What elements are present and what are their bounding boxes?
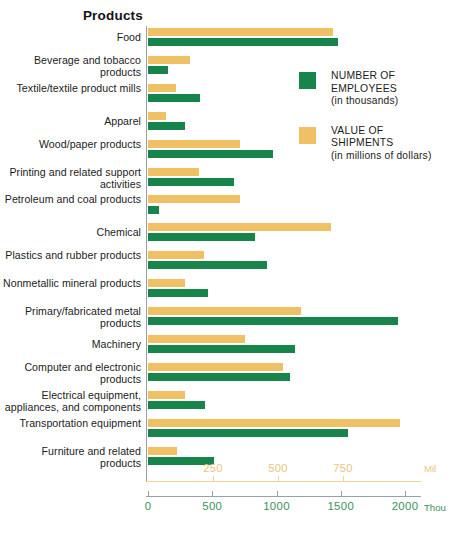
millions-axis-line bbox=[146, 481, 421, 482]
bar-number-of-employees bbox=[148, 373, 290, 381]
thousands-axis-tick bbox=[405, 491, 406, 497]
thousands-axis-tick bbox=[277, 491, 278, 497]
millions-axis-tick-label: 750 bbox=[333, 462, 353, 474]
millions-axis-tick-label: 500 bbox=[268, 462, 288, 474]
bar-group bbox=[148, 363, 290, 381]
bar-value-of-shipments bbox=[148, 168, 199, 176]
legend-employees-line2: EMPLOYEES bbox=[331, 83, 431, 96]
bar-value-of-shipments bbox=[148, 112, 166, 120]
bar-number-of-employees bbox=[148, 401, 205, 409]
millions-axis-tick bbox=[278, 476, 279, 482]
bar-group bbox=[148, 140, 273, 158]
legend-shipments-line1: VALUE OF bbox=[331, 125, 431, 138]
bar-number-of-employees bbox=[148, 233, 255, 241]
bar-number-of-employees bbox=[148, 150, 273, 158]
bar-value-of-shipments bbox=[148, 251, 204, 259]
page-title: Products bbox=[0, 8, 143, 23]
bar-group bbox=[148, 223, 331, 241]
bar-group bbox=[148, 28, 338, 46]
category-label: Printing and related support activities bbox=[0, 166, 141, 191]
category-label: Petroleum and coal products bbox=[0, 193, 141, 205]
category-label: Computer and electronic products bbox=[0, 361, 141, 386]
bar-number-of-employees bbox=[148, 289, 208, 297]
category-label: Plastics and rubber products bbox=[0, 249, 141, 261]
thousands-axis-unit: Thou bbox=[424, 502, 446, 513]
thousands-axis-tick-label: 1500 bbox=[327, 500, 354, 512]
bar-value-of-shipments bbox=[148, 391, 185, 399]
bar-group bbox=[148, 279, 208, 297]
bar-group bbox=[148, 168, 234, 186]
thousands-axis-tick bbox=[212, 491, 213, 497]
bar-number-of-employees bbox=[148, 38, 338, 46]
millions-axis-tick bbox=[213, 476, 214, 482]
thousands-axis-line bbox=[146, 496, 421, 497]
legend-label-shipments: VALUE OF SHIPMENTS (in millions of dolla… bbox=[331, 125, 431, 163]
legend-employees-line3: (in thousands) bbox=[331, 95, 431, 108]
bar-group bbox=[148, 112, 185, 130]
bar-group bbox=[148, 307, 398, 325]
bar-number-of-employees bbox=[148, 345, 295, 353]
legend-item-shipments: VALUE OF SHIPMENTS (in millions of dolla… bbox=[299, 125, 431, 163]
bar-value-of-shipments bbox=[148, 335, 245, 343]
thousands-axis-tick-label: 2000 bbox=[392, 500, 419, 512]
category-label: Transportation equipment bbox=[0, 417, 141, 429]
bar-number-of-employees bbox=[148, 317, 398, 325]
bar-number-of-employees bbox=[148, 206, 159, 214]
bar-value-of-shipments bbox=[148, 223, 331, 231]
bar-group bbox=[148, 335, 295, 353]
category-label: Primary/fabricated metal products bbox=[0, 305, 141, 330]
bar-number-of-employees bbox=[148, 261, 267, 269]
bar-group bbox=[148, 419, 400, 437]
bar-value-of-shipments bbox=[148, 195, 240, 203]
category-label: Machinery bbox=[0, 338, 141, 350]
bar-value-of-shipments bbox=[148, 363, 283, 371]
bar-value-of-shipments bbox=[148, 28, 333, 36]
bar-group bbox=[148, 84, 200, 102]
bar-value-of-shipments bbox=[148, 84, 176, 92]
legend-employees-line1: NUMBER OF bbox=[331, 70, 431, 83]
bar-group bbox=[148, 195, 240, 213]
bar-value-of-shipments bbox=[148, 140, 240, 148]
bar-number-of-employees bbox=[148, 429, 348, 437]
category-label: Beverage and tobacco products bbox=[0, 54, 141, 79]
category-label: Furniture and related products bbox=[0, 445, 141, 470]
bar-number-of-employees bbox=[148, 122, 185, 130]
bar-value-of-shipments bbox=[148, 307, 301, 315]
category-label: Food bbox=[0, 31, 141, 43]
bar-group bbox=[148, 391, 205, 409]
bar-number-of-employees bbox=[148, 178, 234, 186]
millions-axis-unit: Mil bbox=[424, 463, 436, 474]
bar-chart: Products FoodBeverage and tobacco produc… bbox=[0, 0, 467, 536]
bar-group bbox=[148, 56, 190, 74]
category-label: Textile/textile product mills bbox=[0, 82, 141, 94]
bar-value-of-shipments bbox=[148, 447, 177, 455]
legend-label-employees: NUMBER OF EMPLOYEES (in thousands) bbox=[331, 70, 431, 108]
thousands-axis-tick-label: 500 bbox=[202, 500, 222, 512]
thousands-axis-tick bbox=[341, 491, 342, 497]
thousands-axis-tick bbox=[148, 491, 149, 497]
category-label: Wood/paper products bbox=[0, 138, 141, 150]
thousands-axis-tick-label: 1000 bbox=[263, 500, 290, 512]
legend-item-employees: NUMBER OF EMPLOYEES (in thousands) bbox=[299, 70, 431, 108]
millions-axis-tick-label: 250 bbox=[203, 462, 223, 474]
thousands-axis-tick-label: 0 bbox=[145, 500, 152, 512]
category-label: Nonmetallic mineral products bbox=[0, 277, 141, 289]
bar-number-of-employees bbox=[148, 66, 168, 74]
category-label: Electrical equipment, appliances, and co… bbox=[0, 389, 141, 414]
chart-legend: NUMBER OF EMPLOYEES (in thousands) VALUE… bbox=[299, 70, 431, 180]
bar-value-of-shipments bbox=[148, 279, 185, 287]
millions-axis-tick bbox=[343, 476, 344, 482]
legend-shipments-line3: (in millions of dollars) bbox=[331, 150, 431, 163]
category-label: Apparel bbox=[0, 115, 141, 127]
bar-value-of-shipments bbox=[148, 56, 190, 64]
category-label: Chemical bbox=[0, 226, 141, 238]
legend-swatch-green-icon bbox=[299, 72, 316, 89]
legend-shipments-line2: SHIPMENTS bbox=[331, 137, 431, 150]
bar-number-of-employees bbox=[148, 94, 200, 102]
legend-swatch-orange-icon bbox=[299, 127, 316, 144]
bar-value-of-shipments bbox=[148, 419, 400, 427]
bar-group bbox=[148, 251, 267, 269]
